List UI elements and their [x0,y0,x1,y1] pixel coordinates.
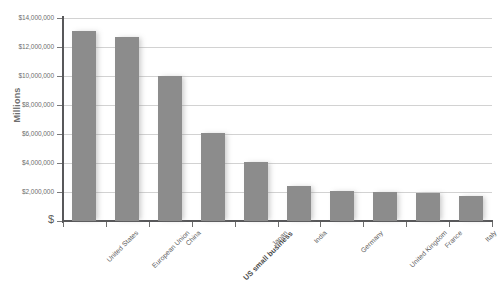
bar [459,196,483,221]
x-axis-tick-label: Germany [359,229,384,254]
x-axis-tick-label: US small business [242,229,295,282]
bar [416,193,440,221]
x-axis-tick [492,222,493,227]
x-axis-tick [235,222,236,227]
bar [244,162,268,221]
y-axis-tick-label: $2,000,000 [0,188,54,195]
bar [373,192,397,221]
x-axis-tick-label: Italy [483,229,497,243]
y-axis-tick-label: $12,000,000 [0,43,54,50]
x-axis-tick-label: India [312,229,328,245]
y-axis-line [62,16,64,223]
gridline [63,18,492,19]
bar [287,186,311,221]
bar [158,76,182,221]
x-axis-tick-label: United Kingdom [408,229,448,269]
x-axis-tick [406,222,407,227]
y-axis-tick-label: $6,000,000 [0,130,54,137]
x-axis-tick-label: European Union [151,229,191,269]
y-axis-tick-label: $10,000,000 [0,72,54,79]
x-axis-tick [149,222,150,227]
x-axis-tick [320,222,321,227]
y-axis-tick-label: $ [0,213,54,225]
x-axis-tick [192,222,193,227]
bar-chart: Millions $$2,000,000$4,000,000$6,000,000… [0,0,499,287]
x-axis-tick-label: United States [106,229,140,263]
bar [330,191,354,221]
y-axis-tick-label: $14,000,000 [0,14,54,21]
bar [201,133,225,221]
bar [72,31,96,221]
bar [115,37,139,221]
y-axis-tick-label: $4,000,000 [0,159,54,166]
x-axis-tick [63,222,64,227]
x-axis-tick [106,222,107,227]
x-axis-tick [278,222,279,227]
x-axis-tick [449,222,450,227]
y-axis-tick-label: $8,000,000 [0,101,54,108]
x-axis-tick [363,222,364,227]
